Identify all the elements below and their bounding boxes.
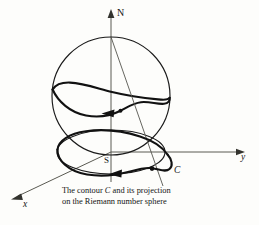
- label-south-pole: S: [104, 156, 109, 165]
- projected-point-dot: [150, 166, 155, 171]
- caption-line1-before: The contour: [62, 186, 105, 195]
- label-x-axis: x: [23, 200, 27, 210]
- north-axis-arrow-icon: [108, 9, 115, 18]
- label-north-pole: N: [117, 8, 124, 18]
- x-axis-arrow-icon: [11, 194, 23, 200]
- plane-contour-curve-group: [57, 130, 171, 177]
- sphere-point-dot: [119, 109, 123, 113]
- label-contour-c: C: [174, 166, 180, 176]
- caption-line1-after: and its projection: [110, 186, 170, 195]
- riemann-sphere-figure: N S C y x The contour C and its projecti…: [0, 0, 259, 225]
- figure-caption: The contour C and its projection on the …: [62, 185, 212, 207]
- caption-line2: on the Riemann number sphere: [62, 197, 167, 206]
- label-y-axis: y: [241, 153, 245, 163]
